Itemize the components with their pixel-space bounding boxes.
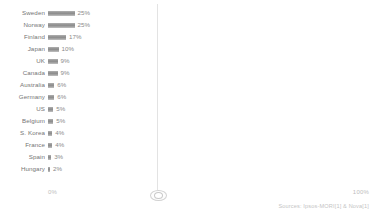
source-attribution: Sources: Ipsos-MORI[1] & Nova[1] [278,203,369,209]
bar-category-label: Belgium [0,115,45,127]
bar-row: Japan10% [0,43,157,55]
bar-category-label: US [0,103,45,115]
bar-fill [48,83,54,88]
bar-track: 6% [48,79,157,91]
bar-fill [48,155,51,160]
bar-value-label: 9% [61,55,70,67]
bar-fill [48,107,53,112]
bar-row: Belgium5% [0,115,157,127]
bar-track: 10% [48,43,157,55]
bar-row: Spain3% [0,151,157,163]
bar-track: 3% [48,151,157,163]
axis-tick-max: 100% [353,189,369,195]
bar-value-label: 6% [57,79,66,91]
panel-resize-grip[interactable] [150,189,165,200]
bar-track: 6% [48,91,157,103]
bar-category-label: Norway [0,19,45,31]
bar-row: France4% [0,139,157,151]
bar-track: 5% [48,115,157,127]
bar-fill [48,143,52,148]
bar-fill [48,119,53,124]
bar-category-label: France [0,139,45,151]
bar-fill [48,71,58,76]
bar-category-label: UK [0,55,45,67]
bar-chart-panel: Sweden25%Norway25%Finland17%Japan10%UK9%… [0,0,157,216]
bar-fill [48,167,50,172]
bar-row: Norway25% [0,19,157,31]
bar-category-label: Canada [0,67,45,79]
bar-category-label: S. Korea [0,127,45,139]
bar-track: 17% [48,31,157,43]
bar-category-label: Finland [0,31,45,43]
bar-track: 25% [48,19,157,31]
bar-value-label: 6% [57,91,66,103]
bar-fill [48,131,52,136]
bar-track: 5% [48,103,157,115]
bar-value-label: 17% [69,31,81,43]
bar-row: Australia6% [0,79,157,91]
bar-value-label: 5% [56,115,65,127]
bar-track: 9% [48,67,157,79]
bar-value-label: 4% [55,127,64,139]
bar-row: Finland17% [0,31,157,43]
bar-value-label: 25% [78,7,90,19]
bar-value-label: 25% [78,19,90,31]
bar-value-label: 3% [54,151,63,163]
bar-fill [48,95,54,100]
bar-track: 25% [48,7,157,19]
bar-fill [48,35,66,40]
bar-category-label: Japan [0,43,45,55]
bar-fill [48,59,58,64]
axis-tick-min: 0% [48,189,57,195]
bar-value-label: 5% [56,103,65,115]
bar-row: Hungary2% [0,163,157,175]
bar-row: Germany6% [0,91,157,103]
bar-track: 2% [48,163,157,175]
bar-row: Sweden25% [0,7,157,19]
bar-category-label: Australia [0,79,45,91]
bar-category-label: Hungary [0,163,45,175]
bar-value-label: 4% [55,139,64,151]
bar-fill [48,11,75,16]
grip-inner-ring [154,192,163,199]
bar-track: 4% [48,127,157,139]
bar-category-label: Germany [0,91,45,103]
bar-category-label: Spain [0,151,45,163]
bar-fill [48,47,59,52]
bar-category-label: Sweden [0,7,45,19]
bar-track: 9% [48,55,157,67]
bar-value-label: 9% [61,67,70,79]
bar-value-label: 2% [53,163,62,175]
bar-value-label: 10% [62,43,74,55]
bar-row: UK9% [0,55,157,67]
bar-row: S. Korea4% [0,127,157,139]
bar-row: Canada9% [0,67,157,79]
bar-fill [48,23,75,28]
bar-row: US5% [0,103,157,115]
bar-chart-rows: Sweden25%Norway25%Finland17%Japan10%UK9%… [0,7,157,175]
bar-track: 4% [48,139,157,151]
panel-divider-line[interactable] [157,4,158,190]
